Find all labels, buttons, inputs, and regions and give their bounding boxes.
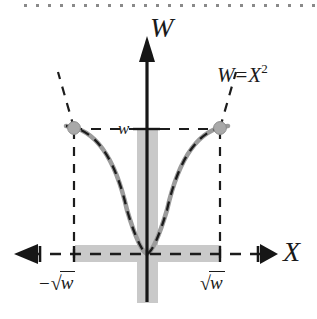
minus-sign: − bbox=[38, 273, 51, 294]
point-marker-positive-root bbox=[214, 122, 227, 135]
threshold-label-w: w bbox=[118, 120, 129, 137]
radical-argument-negative: w bbox=[60, 271, 76, 292]
radical-positive: √w bbox=[200, 272, 225, 294]
y-axis-label: W bbox=[150, 14, 173, 42]
radical-negative: √w bbox=[51, 272, 76, 294]
x-axis-label: X bbox=[283, 238, 300, 266]
x-axis-arrowhead-left bbox=[14, 244, 38, 264]
curve-equation-lhs: W bbox=[217, 63, 235, 87]
curve-equation-label: W=X2 bbox=[217, 63, 268, 86]
positive-root-label: √w bbox=[200, 272, 225, 294]
radical-argument-positive: w bbox=[209, 271, 225, 292]
point-marker-negative-root bbox=[68, 122, 81, 135]
top-dotted-border bbox=[24, 4, 315, 7]
curve-equation-exponent: 2 bbox=[261, 61, 268, 76]
negative-root-label: −√w bbox=[38, 272, 75, 294]
curve-equation-equals: = bbox=[235, 63, 249, 87]
parabola-extension-left bbox=[58, 72, 74, 128]
parabola-figure: W X W=X2 w −√w √w bbox=[0, 0, 317, 319]
x-axis-arrowhead-right bbox=[260, 244, 278, 264]
curve-equation-rhs: X bbox=[248, 63, 261, 87]
